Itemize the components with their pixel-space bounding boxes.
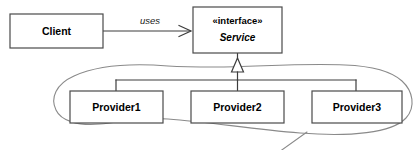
- node-client[interactable]: Client: [10, 14, 103, 48]
- uml-diagram-canvas: Client «interface» Service uses Provider…: [0, 0, 420, 150]
- service-name-label: Service: [220, 32, 256, 43]
- service-stereotype-label: «interface»: [212, 15, 262, 26]
- node-provider3[interactable]: Provider3: [312, 91, 402, 123]
- provider3-label: Provider3: [333, 101, 382, 113]
- provider2-label: Provider2: [213, 101, 262, 113]
- annotation-leader-line: [279, 132, 307, 150]
- association-uses-connector: [103, 26, 191, 37]
- realization-connector: [116, 53, 356, 91]
- node-provider2[interactable]: Provider2: [191, 91, 284, 123]
- uses-edge-label: uses: [140, 15, 160, 26]
- generalization-triangle: [232, 58, 244, 72]
- node-provider1[interactable]: Provider1: [70, 91, 163, 123]
- client-label: Client: [42, 25, 72, 37]
- node-service-interface[interactable]: «interface» Service: [193, 7, 282, 53]
- provider1-label: Provider1: [92, 101, 141, 113]
- diagram-svg: Client «interface» Service uses Provider…: [0, 0, 420, 150]
